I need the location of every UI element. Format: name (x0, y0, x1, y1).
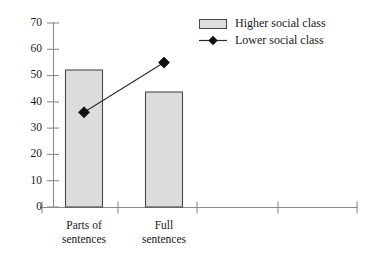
legend-item-lower-social-class: Lower social class (197, 33, 326, 48)
chart-container: 70 60 50 40 30 20 10 0 Parts of sentence… (0, 0, 374, 258)
legend-swatch-icon (197, 17, 229, 30)
data-point-full-sentences (159, 57, 170, 68)
legend-diamond-marker-icon (197, 34, 229, 47)
x-category-label-full-sentences: Full sentences (115, 218, 213, 246)
y-tick-label-50: 50 (14, 69, 42, 81)
x-category-label-line-1: Full (115, 218, 213, 232)
y-tick-label-60: 60 (14, 43, 42, 55)
legend-label-lower-social-class: Lower social class (235, 34, 324, 47)
x-category-label-line-2: sentences (115, 232, 213, 246)
y-tick-label-70: 70 (14, 17, 42, 29)
y-tick-label-30: 30 (14, 122, 42, 134)
y-tick-label-0: 0 (14, 201, 42, 213)
y-tick-label-20: 20 (14, 148, 42, 160)
legend-label-higher-social-class: Higher social class (235, 17, 326, 30)
bar-full-sentences (146, 92, 183, 207)
legend-item-higher-social-class: Higher social class (197, 16, 326, 31)
y-tick-label-10: 10 (14, 175, 42, 187)
bar-parts-of-sentences (66, 70, 103, 207)
bar-series-higher-social-class (66, 70, 183, 207)
chart-legend: Higher social class Lower social class (197, 16, 326, 48)
y-tick-label-40: 40 (14, 96, 42, 108)
